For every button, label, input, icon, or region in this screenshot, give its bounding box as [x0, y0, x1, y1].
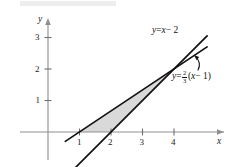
- line-y-equals-x-minus-2: [75, 36, 207, 167]
- eq2-equals: =: [176, 71, 181, 81]
- line-y-equals-two-thirds-x-minus-1: [65, 47, 207, 141]
- eq2-minus-one: − 1: [195, 71, 207, 81]
- eq1-minus-two: − 2: [166, 25, 178, 35]
- y-axis-arrowhead: [45, 18, 51, 25]
- x-axis-arrowhead: [217, 129, 224, 135]
- equation-label-line2: y=23(x− 1): [172, 70, 211, 85]
- x-axis-label: x: [217, 137, 221, 147]
- x-tick-label-2: 2: [108, 138, 113, 147]
- eq2-paren-close: ): [208, 71, 211, 81]
- y-tick-label-2: 2: [35, 65, 40, 74]
- y-tick-label-3: 3: [35, 33, 40, 42]
- x-tick-label-3: 3: [140, 138, 145, 147]
- y-axis-label: y: [38, 15, 42, 25]
- equation-label-line1: y=x− 2: [152, 26, 178, 36]
- graph-figure: y x 3 2 1 1 2 3 4 y=x− 2 y=23(x− 1): [0, 0, 240, 167]
- y-tick-label-1: 1: [36, 96, 41, 105]
- x-tick-label-1: 1: [77, 138, 82, 147]
- x-tick-label-4: 4: [171, 138, 176, 147]
- eq2-fraction-two-thirds: 23: [182, 70, 187, 85]
- eq2-denominator: 3: [182, 78, 187, 85]
